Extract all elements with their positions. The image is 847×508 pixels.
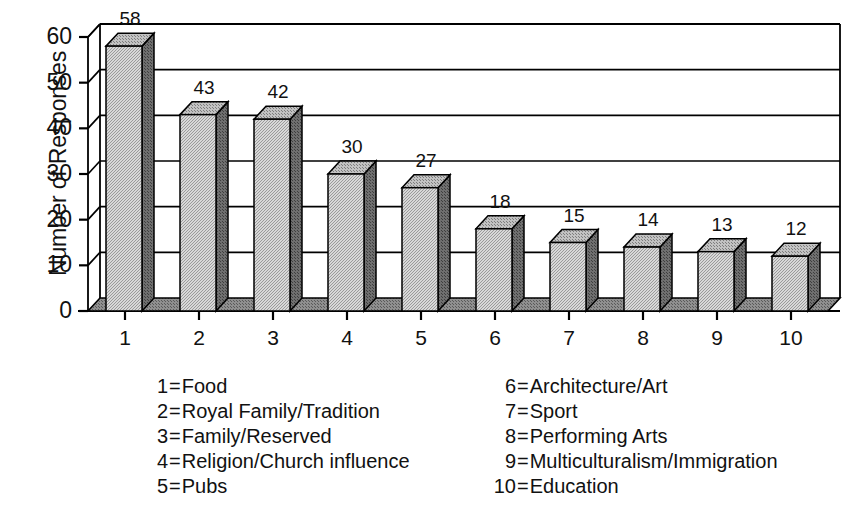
legend-item-label: Education: [530, 474, 619, 499]
legend-item-equals: =: [516, 374, 530, 399]
bar-value-label: 18: [489, 192, 510, 211]
legend-item-label: Family/Reserved: [182, 424, 332, 449]
legend-item: 6=Architecture/Art: [486, 374, 778, 399]
bar-value-label: 30: [341, 137, 362, 156]
bar-value-label: 27: [415, 151, 436, 170]
bar: [254, 106, 302, 311]
bar-value-label: 42: [267, 82, 288, 101]
legend-item-equals: =: [516, 399, 530, 424]
legend-item-key: 5: [138, 474, 168, 499]
legend-item-key: 9: [486, 449, 516, 474]
bars-group: [106, 33, 820, 311]
legend-item-equals: =: [168, 424, 182, 449]
bar-value-label: 43: [193, 78, 214, 97]
legend-item-label: Royal Family/Tradition: [182, 399, 380, 424]
bar-value-label: 13: [711, 215, 732, 234]
legend-item-equals: =: [516, 424, 530, 449]
legend-item-equals: =: [168, 374, 182, 399]
x-axis-tick-label: 6: [489, 327, 501, 348]
bar: [624, 234, 672, 311]
bar: [402, 175, 450, 311]
legend-item: 9=Multiculturalism/Immigration: [486, 449, 778, 474]
bar: [180, 102, 228, 311]
legend-item: 1=Food: [138, 374, 410, 399]
legend-item-key: 2: [138, 399, 168, 424]
legend-item-label: Religion/Church influence: [182, 449, 410, 474]
bar: [106, 33, 154, 311]
legend-item-label: Performing Arts: [530, 424, 668, 449]
legend-item-key: 7: [486, 399, 516, 424]
legend-item-key: 10: [486, 474, 516, 499]
x-axis-tick-label: 3: [267, 327, 279, 348]
bar: [476, 216, 524, 311]
x-axis-tick-label: 4: [341, 327, 353, 348]
legend-item-label: Pubs: [182, 474, 228, 499]
legend-item: 10=Education: [486, 474, 778, 499]
legend-item: 4=Religion/Church influence: [138, 449, 410, 474]
bar-value-label: 15: [563, 206, 584, 225]
legend-item-key: 3: [138, 424, 168, 449]
legend-item-label: Multiculturalism/Immigration: [530, 449, 778, 474]
x-axis-tick-label: 2: [193, 327, 205, 348]
bar: [328, 161, 376, 311]
legend-item-key: 8: [486, 424, 516, 449]
legend-item-equals: =: [168, 449, 182, 474]
bar: [698, 239, 746, 311]
x-axis-tick-label: 5: [415, 327, 427, 348]
x-axis-tick-label: 10: [779, 327, 802, 348]
legend-item-equals: =: [516, 474, 530, 499]
legend-item: 7=Sport: [486, 399, 778, 424]
x-axis-tick-label: 8: [637, 327, 649, 348]
x-axis-tick-label: 7: [563, 327, 575, 348]
legend: 1=Food2=Royal Family/Tradition3=Family/R…: [0, 374, 847, 508]
legend-item: 2=Royal Family/Tradition: [138, 399, 410, 424]
legend-item-equals: =: [168, 474, 182, 499]
bar-value-label: 12: [785, 219, 806, 238]
legend-column-left: 1=Food2=Royal Family/Tradition3=Family/R…: [138, 374, 410, 499]
plot-area: [0, 0, 847, 360]
legend-item-key: 6: [486, 374, 516, 399]
legend-item-key: 1: [138, 374, 168, 399]
legend-item-equals: =: [516, 449, 530, 474]
bar-value-label: 58: [119, 9, 140, 28]
legend-column-right: 6=Architecture/Art7=Sport8=Performing Ar…: [486, 374, 778, 499]
bar-value-label: 14: [637, 210, 658, 229]
legend-item-equals: =: [168, 399, 182, 424]
x-axis-ticks: [125, 311, 791, 320]
bar: [772, 243, 820, 311]
bar-chart-figure: Number of Responses 0102030405060: [0, 0, 847, 508]
legend-item: 8=Performing Arts: [486, 424, 778, 449]
legend-item-label: Architecture/Art: [530, 374, 668, 399]
legend-item: 5=Pubs: [138, 474, 410, 499]
legend-item-key: 4: [138, 449, 168, 474]
x-axis-tick-label: 9: [711, 327, 723, 348]
legend-item-label: Sport: [530, 399, 578, 424]
bar: [550, 230, 598, 312]
legend-item: 3=Family/Reserved: [138, 424, 410, 449]
legend-item-label: Food: [182, 374, 228, 399]
x-axis-tick-label: 1: [119, 327, 131, 348]
